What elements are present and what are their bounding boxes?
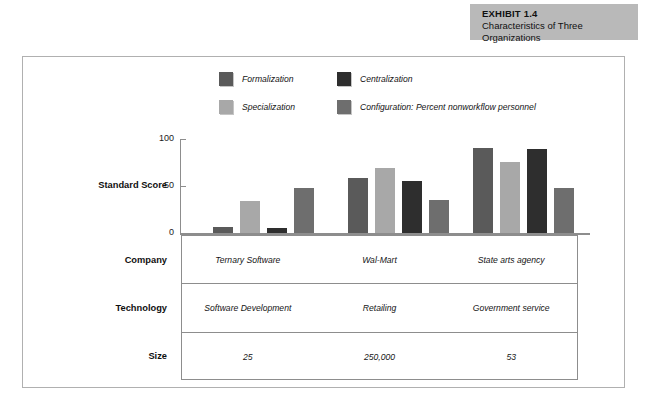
row-header-size: Size: [55, 351, 167, 361]
bar-group: [473, 137, 581, 233]
bar: [500, 162, 520, 233]
table-row: 25250,00053: [182, 333, 577, 381]
table-cell: State arts agency: [445, 255, 577, 265]
bar: [527, 149, 547, 233]
table-cell: Ternary Software: [182, 255, 314, 265]
row-header-technology: Technology: [55, 303, 167, 313]
table-cell: Retailing: [314, 303, 446, 313]
table-cell: 25: [182, 352, 314, 362]
bar: [240, 201, 260, 233]
bar: [348, 178, 368, 233]
bar: [554, 188, 574, 233]
row-header-company: Company: [55, 255, 167, 265]
table-cell: Government service: [445, 303, 577, 313]
y-tick-label-0: 0: [148, 227, 174, 237]
table-row: Ternary SoftwareWal-MartState arts agenc…: [182, 236, 577, 284]
y-tick-label-100: 100: [148, 133, 174, 143]
bar-group: [213, 137, 321, 233]
plot-area: [181, 137, 589, 233]
bar: [473, 148, 493, 233]
exhibit-header-band: EXHIBIT 1.4 Characteristics of Three Org…: [470, 4, 638, 40]
characteristics-table: Ternary SoftwareWal-MartState arts agenc…: [181, 235, 578, 380]
table-cell: Wal-Mart: [314, 255, 446, 265]
bar: [375, 168, 395, 233]
bar: [402, 181, 422, 233]
bar: [294, 188, 314, 233]
bar: [429, 200, 449, 233]
bar: [213, 227, 233, 233]
bar: [267, 228, 287, 233]
table-row: Software DevelopmentRetailingGovernment …: [182, 284, 577, 332]
table-cell: Software Development: [182, 303, 314, 313]
exhibit-title: Characteristics of Three Organizations: [482, 20, 630, 43]
exhibit-frame: Formalization Centralization Specializat…: [22, 56, 625, 388]
table-cell: 250,000: [314, 352, 446, 362]
bar-group: [348, 137, 456, 233]
exhibit-number: EXHIBIT 1.4: [482, 8, 630, 19]
y-tick-label-50: 50: [148, 180, 174, 190]
table-cell: 53: [445, 352, 577, 362]
